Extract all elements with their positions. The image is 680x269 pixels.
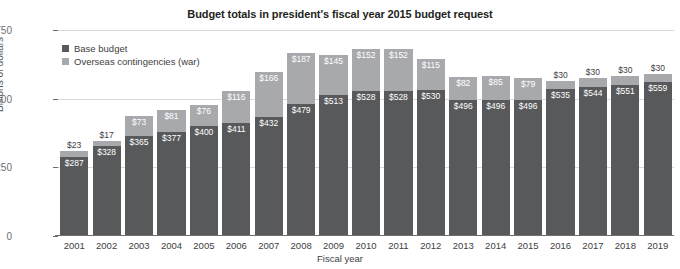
bar-segment-base-2011: [384, 91, 412, 236]
x-tick-label-2013: 2013: [446, 240, 480, 251]
bar-segment-war-2018: [611, 76, 639, 84]
bar-segment-base-2010: [352, 91, 380, 236]
legend-label-base-budget: Base budget: [74, 43, 127, 54]
bar-2005[interactable]: $400$76: [190, 105, 218, 236]
bar-2016[interactable]: $535$30: [546, 81, 574, 236]
bar-label-base-2015: $496: [514, 101, 542, 111]
legend-swatch-overseas-contingencies: [62, 58, 69, 65]
bar-label-war-2006: $116: [222, 92, 250, 102]
bar-segment-base-2018: [611, 85, 639, 236]
bar-segment-base-2006: [222, 123, 250, 236]
legend-item-base-budget: Base budget: [62, 42, 200, 55]
legend-swatch-base-budget: [62, 45, 69, 52]
bar-segment-war-2002: [93, 141, 121, 146]
bar-label-war-2001: $23: [57, 140, 91, 150]
y-tick-label-0: 0: [0, 231, 12, 242]
y-tick-label-750: 750: [0, 25, 12, 36]
bar-label-war-2011: $152: [384, 50, 412, 60]
bar-label-war-2010: $152: [352, 50, 380, 60]
bar-label-base-2002: $328: [93, 147, 121, 157]
bar-segment-base-2008: [287, 104, 315, 236]
bar-2006[interactable]: $411$116: [222, 91, 250, 236]
bar-segment-war-2016: [546, 81, 574, 89]
bar-label-base-2009: $513: [319, 96, 347, 106]
bar-label-base-2014: $496: [482, 101, 510, 111]
x-tick-label-2019: 2019: [641, 240, 675, 251]
bar-2012[interactable]: $530$115: [417, 59, 445, 236]
bar-2018[interactable]: $551$30: [611, 76, 639, 236]
bar-label-war-2013: $82: [449, 78, 477, 88]
bar-segment-base-2007: [255, 117, 283, 236]
chart-legend: Base budget Overseas contingencies (war): [57, 39, 208, 72]
x-tick-label-2018: 2018: [608, 240, 642, 251]
bar-segment-base-2016: [546, 89, 574, 236]
bar-label-base-2006: $411: [222, 124, 250, 134]
bar-label-war-2018: $30: [608, 65, 642, 75]
bar-label-war-2004: $81: [157, 111, 185, 121]
bar-2013[interactable]: $496$82: [449, 77, 477, 236]
bar-2017[interactable]: $544$30: [579, 78, 607, 236]
bar-segment-base-2019: [644, 82, 672, 236]
bar-label-base-2005: $400: [190, 127, 218, 137]
x-tick-label-2005: 2005: [187, 240, 221, 251]
bar-label-war-2014: $85: [482, 77, 510, 87]
chart-title: Budget totals in president's fiscal year…: [0, 8, 680, 20]
x-tick-label-2001: 2001: [57, 240, 91, 251]
bar-2019[interactable]: $559$30: [644, 74, 672, 236]
bar-label-war-2019: $30: [641, 63, 675, 73]
bar-2009[interactable]: $513$145: [319, 55, 347, 236]
bar-segment-war-2019: [644, 74, 672, 82]
bar-segment-base-2005: [190, 126, 218, 236]
bar-segment-base-2004: [157, 132, 185, 236]
bar-segment-war-2017: [579, 78, 607, 86]
bar-2003[interactable]: $365$73: [125, 116, 153, 236]
bar-label-war-2005: $76: [190, 106, 218, 116]
chart-container: Budget totals in president's fiscal year…: [0, 0, 680, 269]
x-tick-label-2014: 2014: [479, 240, 513, 251]
y-tick-label-500: 500: [0, 93, 12, 104]
bar-label-war-2003: $73: [125, 117, 153, 127]
bar-2010[interactable]: $528$152: [352, 49, 380, 236]
y-tick-mark-0: [53, 236, 58, 237]
bar-label-base-2012: $530: [417, 91, 445, 101]
bar-segment-war-2001: [60, 151, 88, 157]
bar-2014[interactable]: $496$85: [482, 76, 510, 236]
bar-2002[interactable]: $328$17: [93, 141, 121, 236]
bar-label-war-2009: $145: [319, 56, 347, 66]
bar-label-base-2011: $528: [384, 92, 412, 102]
bar-segment-base-2001: [60, 157, 88, 236]
x-tick-label-2009: 2009: [316, 240, 350, 251]
legend-label-overseas-contingencies: Overseas contingencies (war): [74, 56, 200, 67]
bar-label-war-2015: $79: [514, 79, 542, 89]
x-axis-line: [55, 235, 674, 236]
x-tick-label-2002: 2002: [90, 240, 124, 251]
bar-label-base-2003: $365: [125, 137, 153, 147]
bar-label-base-2008: $479: [287, 105, 315, 115]
bar-segment-base-2015: [514, 100, 542, 236]
bar-segment-base-2003: [125, 136, 153, 236]
x-tick-label-2012: 2012: [414, 240, 448, 251]
bar-label-base-2001: $287: [60, 158, 88, 168]
bar-label-base-2013: $496: [449, 101, 477, 111]
x-tick-label-2011: 2011: [381, 240, 415, 251]
bar-2011[interactable]: $528$152: [384, 49, 412, 236]
bar-2001[interactable]: $287$23: [60, 151, 88, 236]
y-tick-label-250: 250: [0, 162, 12, 173]
bar-2004[interactable]: $377$81: [157, 110, 185, 236]
bar-label-war-2007: $166: [255, 73, 283, 83]
bar-label-war-2008: $187: [287, 54, 315, 64]
bar-segment-base-2002: [93, 146, 121, 236]
bar-2008[interactable]: $479$187: [287, 53, 315, 236]
x-tick-label-2003: 2003: [122, 240, 156, 251]
bar-segment-base-2014: [482, 100, 510, 236]
x-tick-label-2006: 2006: [219, 240, 253, 251]
bar-2015[interactable]: $496$79: [514, 78, 542, 236]
bar-2007[interactable]: $432$166: [255, 72, 283, 236]
bar-label-base-2007: $432: [255, 118, 283, 128]
x-tick-label-2010: 2010: [349, 240, 383, 251]
bar-label-base-2019: $559: [644, 83, 672, 93]
x-tick-label-2015: 2015: [511, 240, 545, 251]
bar-label-base-2017: $544: [579, 88, 607, 98]
bar-segment-base-2012: [417, 90, 445, 236]
x-tick-label-2016: 2016: [543, 240, 577, 251]
